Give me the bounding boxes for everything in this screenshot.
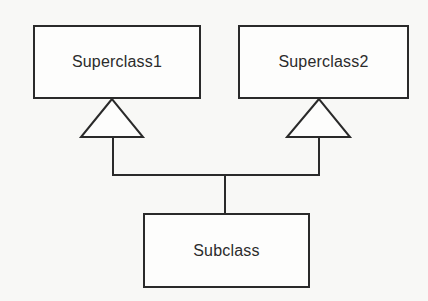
class-label-superclass2: Superclass2	[278, 53, 368, 71]
class-box-superclass1[interactable]: Superclass1	[33, 25, 201, 99]
class-label-subclass: Subclass	[193, 242, 260, 260]
diagram-canvas: Superclass1 Superclass2 Subclass	[0, 0, 428, 301]
class-label-superclass1: Superclass1	[72, 53, 162, 71]
generalization-arrow-superclass2-icon	[287, 99, 350, 137]
class-box-superclass2[interactable]: Superclass2	[238, 25, 409, 99]
class-box-subclass[interactable]: Subclass	[143, 213, 310, 288]
generalization-arrow-superclass1-icon	[81, 99, 143, 137]
